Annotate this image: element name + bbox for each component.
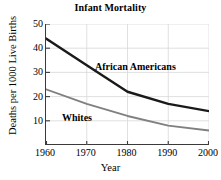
y-tick-label: 30 [19,67,43,77]
x-tick-label: 1960 [25,148,65,158]
y-tick-label: 20 [19,92,43,102]
y-tick-label: 10 [19,116,43,126]
chart-title: Infant Mortality [0,2,221,13]
x-axis-tick-labels: 19601970198019902000 [45,148,208,162]
x-tick-label: 1990 [147,148,187,158]
plot-svg [46,24,209,145]
y-tick-label: 50 [19,19,43,29]
series-label-african-americans: African Americans [95,61,176,72]
series-label-whites: Whites [62,112,92,123]
y-axis-label: Deaths per 1000 Live Births [7,6,18,146]
x-axis-label: Year [0,162,221,173]
x-tick-label: 2000 [188,148,221,158]
chart-figure: Infant Mortality Deaths per 1000 Live Bi… [0,0,221,180]
y-axis-tick-labels: 1020304050 [17,24,43,145]
x-tick-label: 1970 [66,148,106,158]
plot-area [45,24,208,145]
y-tick-label: 40 [19,43,43,53]
x-tick-label: 1980 [107,148,147,158]
